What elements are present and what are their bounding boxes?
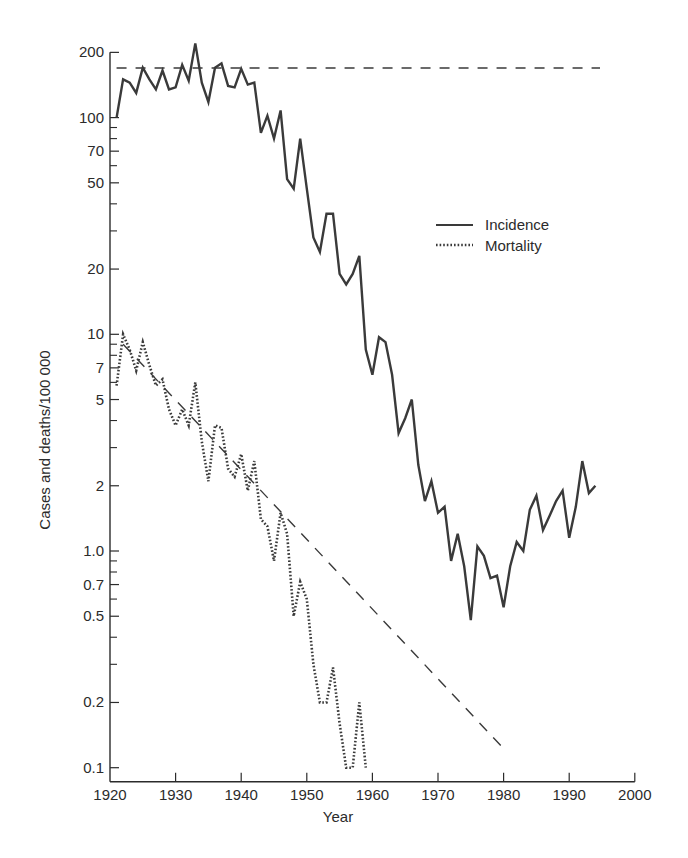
- x-tick-label: 1930: [159, 786, 192, 803]
- y-tick-label: 7: [96, 359, 104, 376]
- y-axis-title: Cases and deaths/100 000: [36, 350, 53, 529]
- x-axis-title: Year: [323, 808, 353, 825]
- legend: Incidence Mortality: [436, 216, 549, 254]
- x-tick-label: 1960: [356, 786, 389, 803]
- legend-incidence-label: Incidence: [485, 216, 549, 233]
- y-tick-label: 2: [96, 477, 104, 494]
- x-tick-label: 1950: [290, 786, 323, 803]
- y-tick-label: 0.1: [83, 759, 104, 776]
- reference-lines: [117, 68, 600, 750]
- y-tick-label: 200: [79, 43, 104, 60]
- y-tick-label: 5: [96, 391, 104, 408]
- x-tick-label: 1970: [421, 786, 454, 803]
- incidence-line: [117, 43, 596, 620]
- mortality-line: [117, 334, 366, 767]
- y-tick-label: 50: [87, 174, 104, 191]
- y-tick-label: 20: [87, 260, 104, 277]
- series-lines: [117, 43, 596, 767]
- x-tick-label: 1990: [553, 786, 586, 803]
- legend-mortality-label: Mortality: [485, 237, 542, 254]
- y-tick-label: 10: [87, 325, 104, 342]
- y-tick-label: 1.0: [83, 542, 104, 559]
- y-tick-label: 100: [79, 109, 104, 126]
- axes: 200100705020107521.00.70.50.20.119201930…: [79, 43, 652, 802]
- x-tick-label: 1920: [93, 786, 126, 803]
- y-tick-label: 70: [87, 142, 104, 159]
- y-tick-label: 0.7: [83, 576, 104, 593]
- mortality-trend-dashed: [123, 344, 505, 750]
- y-tick-label: 0.2: [83, 693, 104, 710]
- y-tick-label: 0.5: [83, 607, 104, 624]
- x-tick-label: 2000: [618, 786, 651, 803]
- x-tick-label: 1940: [225, 786, 258, 803]
- incidence-mortality-chart: 200100705020107521.00.70.50.20.119201930…: [0, 0, 688, 858]
- x-tick-label: 1980: [487, 786, 520, 803]
